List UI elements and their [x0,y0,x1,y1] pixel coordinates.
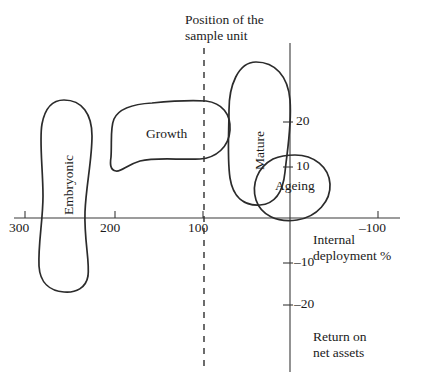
region-label-growth: Growth [146,126,187,142]
region-label-embryonic: Embryonic [61,155,77,215]
y-tick-label-minus-20: –20 [294,296,314,312]
region-label-mature: Mature [252,131,268,170]
y-tick-label-minus-10: –10 [294,254,314,270]
y-tick-label-10: 10 [296,158,310,174]
region-label-ageing: Ageing [275,178,315,194]
sample-unit-caption-line1: Position of the [185,12,264,28]
lifecycle-position-chart: Position of the sample unit 300 200 100 … [0,0,429,390]
x-tick-label-200: 200 [100,220,120,236]
x-axis-title: Internal deployment % [313,232,391,264]
y-axis-title: Return on net assets [313,329,367,361]
x-tick-label-300: 300 [9,220,29,236]
y-tick-label-20: 20 [296,113,310,129]
sample-unit-caption-line2: sample unit [185,28,264,44]
x-axis-title-line2: deployment % [313,248,391,264]
y-axis-title-line2: net assets [313,345,367,361]
sample-unit-caption: Position of the sample unit [185,12,264,44]
y-axis-title-line1: Return on [313,329,367,345]
x-axis-title-line1: Internal [313,232,391,248]
x-tick-label-100: 100 [188,220,208,236]
